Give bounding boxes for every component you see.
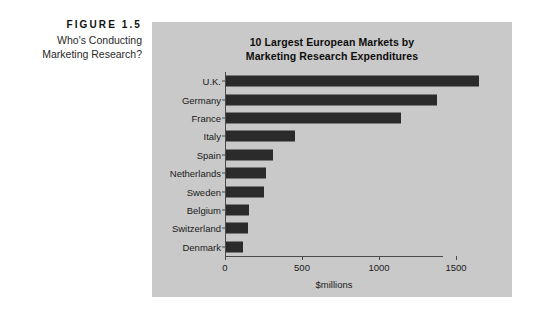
y-axis-tick [222,209,225,210]
bar-category-label: Italy [204,131,221,142]
x-axis-line [225,256,443,257]
x-axis-title: $millions [225,279,443,290]
figure-caption: FIGURE 1.5 Who's Conducting Marketing Re… [8,18,142,61]
bar-row: Denmark [152,238,512,256]
y-axis-tick [222,154,225,155]
figure-title-line-1: Who's Conducting [8,34,142,48]
bar-row: Spain [152,146,512,164]
bar-category-label: Sweden [187,186,221,197]
bar [226,94,437,105]
bar [226,168,266,179]
bar-category-label: Spain [197,149,221,160]
bar-row: Netherlands [152,164,512,182]
bar-category-label: Denmark [182,241,221,252]
x-axis-tick-label: 0 [222,262,227,273]
y-axis-tick [222,81,225,82]
bar [226,241,243,252]
bar-row: Italy [152,127,512,145]
x-axis-tick-label: 500 [294,262,310,273]
bar-category-label: Switzerland [172,223,221,234]
y-axis-tick [222,117,225,118]
bar [226,76,479,87]
x-axis-tick-label: 1500 [445,262,466,273]
bar-row: Germany [152,90,512,108]
bar-category-label: France [191,112,221,123]
bar-row: Switzerland [152,219,512,237]
x-axis-tick-label: 1000 [368,262,389,273]
chart-panel: 10 Largest European Markets by Marketing… [152,22,512,297]
bar-row: Belgium [152,201,512,219]
plot-area: $millions U.K.GermanyFranceItalySpainNet… [152,22,512,297]
bar [226,131,295,142]
bar [226,223,248,234]
bar-category-label: Germany [182,94,221,105]
bar [226,186,264,197]
y-axis-tick [222,173,225,174]
y-axis-tick [222,191,225,192]
bar-row: France [152,109,512,127]
x-axis-tick [379,256,380,260]
y-axis-tick [222,99,225,100]
bar [226,204,249,215]
figure-number: FIGURE 1.5 [8,18,142,31]
y-axis-tick [222,136,225,137]
bar-category-label: U.K. [203,76,221,87]
x-axis-tick [456,256,457,260]
x-axis-tick [302,256,303,260]
y-axis-tick [222,228,225,229]
bar [226,149,273,160]
x-axis-tick [225,256,226,260]
bar-row: U.K. [152,72,512,90]
bar-category-label: Netherlands [170,168,221,179]
y-axis-tick [222,246,225,247]
bar-row: Sweden [152,182,512,200]
bar [226,112,401,123]
bar-category-label: Belgium [187,204,221,215]
figure-title-line-2: Marketing Research? [8,48,142,62]
